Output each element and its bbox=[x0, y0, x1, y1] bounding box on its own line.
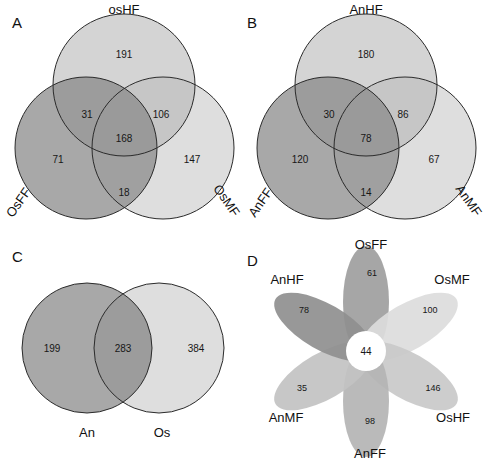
panel-c: C 199 283 384 An Os bbox=[0, 234, 243, 467]
panel-a-venn: 191 71 147 31 106 18 168 osHF OsFF OsMF bbox=[0, 0, 243, 233]
panel-b-label-top: AnHF bbox=[349, 2, 382, 17]
panel-d: D 44 61 100 146 bbox=[244, 234, 487, 467]
panel-b-value-center: 78 bbox=[360, 133, 372, 144]
panel-c-value-center: 283 bbox=[115, 343, 132, 354]
panel-c-label-left: An bbox=[79, 425, 95, 440]
panel-d-value-osff: 61 bbox=[367, 268, 377, 278]
panel-d-label-anmf: AnMF bbox=[269, 410, 304, 425]
panel-c-value-right-only: 384 bbox=[188, 343, 205, 354]
panel-c-venn: 199 283 384 An Os bbox=[0, 234, 243, 467]
panel-a: A bbox=[0, 0, 243, 233]
panel-a-value-right-only: 147 bbox=[184, 154, 201, 165]
panel-d-label-anhf: AnHF bbox=[270, 272, 303, 287]
panel-b-value-right-only: 67 bbox=[428, 154, 440, 165]
panel-a-value-top-right: 106 bbox=[153, 109, 170, 120]
panel-a-value-top-only: 191 bbox=[116, 49, 133, 60]
panel-b-letter: B bbox=[247, 14, 258, 31]
panel-d-label-anff: AnFF bbox=[354, 446, 386, 461]
panel-b-value-left-only: 120 bbox=[292, 154, 309, 165]
panel-a-value-top-left: 31 bbox=[81, 109, 93, 120]
panel-d-center-value: 44 bbox=[360, 346, 372, 357]
panel-b-label-right: AnMF bbox=[453, 182, 485, 219]
panel-b-value-top-right: 86 bbox=[397, 109, 409, 120]
panel-d-label-osff: OsFF bbox=[355, 237, 388, 252]
panel-d-value-oshf: 146 bbox=[425, 383, 440, 393]
panel-b-value-left-right: 14 bbox=[360, 187, 372, 198]
panel-a-label-right: OsMF bbox=[210, 182, 243, 220]
venn-figure: A bbox=[0, 0, 487, 467]
panel-c-label-right: Os bbox=[154, 425, 171, 440]
panel-a-value-center: 168 bbox=[116, 133, 133, 144]
panel-d-label-osmf: OsMF bbox=[434, 272, 469, 287]
panel-b-value-top-only: 180 bbox=[358, 49, 375, 60]
panel-a-value-left-only: 71 bbox=[52, 154, 64, 165]
panel-d-value-anhf: 78 bbox=[299, 305, 309, 315]
panel-b: B bbox=[244, 0, 487, 233]
panel-d-value-anff: 98 bbox=[365, 416, 375, 426]
panel-d-value-anmf: 35 bbox=[297, 383, 307, 393]
panel-b-venn: 180 120 67 30 86 14 78 AnHF AnFF AnMF bbox=[244, 0, 487, 233]
panel-a-letter: A bbox=[12, 14, 23, 31]
panel-d-value-osmf: 100 bbox=[422, 305, 437, 315]
panel-d-label-oshf: OsHF bbox=[436, 410, 470, 425]
panel-a-value-left-right: 18 bbox=[118, 187, 130, 198]
panel-a-label-top: osHF bbox=[108, 2, 139, 17]
panel-d-letter: D bbox=[247, 252, 258, 269]
panel-b-value-top-left: 30 bbox=[323, 109, 335, 120]
panel-c-letter: C bbox=[12, 248, 23, 265]
panel-c-value-left-only: 199 bbox=[44, 343, 61, 354]
panel-d-flower: 44 61 100 146 98 35 78 OsFF OsMF OsHF An… bbox=[244, 234, 487, 467]
